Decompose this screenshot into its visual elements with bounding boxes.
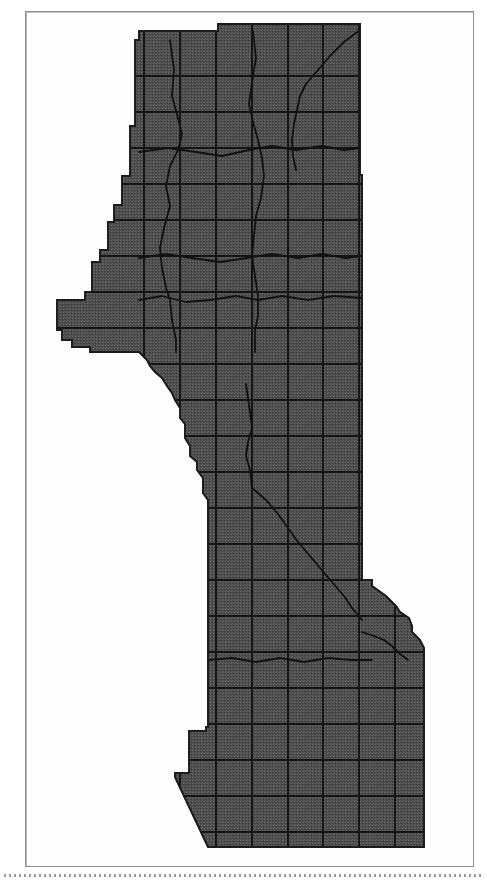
page-bottom-dotted-rule: [4, 874, 483, 877]
map-figure: [0, 0, 487, 885]
page-root: Black and white scanned map showing a sh…: [0, 0, 487, 885]
